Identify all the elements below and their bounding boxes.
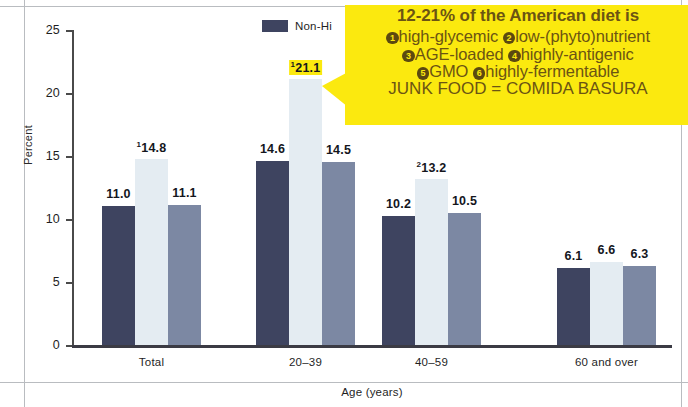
x-axis-title: Age (years) — [341, 386, 403, 398]
callout-marker-6: 6 — [473, 67, 486, 80]
bar-value-label: 14.6 — [260, 142, 285, 156]
callout-marker-1: 1 — [386, 32, 399, 45]
y-tick-mark — [66, 282, 72, 284]
y-tick-label: 10 — [20, 212, 60, 226]
callout-line-5: JUNK FOOD = COMIDA BASURA — [352, 80, 684, 99]
y-tick-label: 0 — [20, 338, 60, 352]
y-tick-mark — [66, 93, 72, 95]
callout-item-3: AGE-loaded — [415, 45, 504, 63]
bar-total-series-2 — [135, 159, 168, 345]
y-tick-label: 20 — [20, 86, 60, 100]
chart-screenshot: Percent 0510152025 11.0114.811.114.6121.… — [0, 0, 688, 407]
legend-label: Non-Hi — [295, 20, 332, 32]
bar-20-39-series-1 — [256, 161, 289, 345]
callout-item-4: highly-antigenic — [521, 45, 634, 63]
bar-60-and-over-series-1 — [557, 268, 590, 345]
bar-value-label: 10.5 — [452, 194, 477, 208]
bar-40-59-series-2 — [415, 179, 448, 345]
frame-border-bottom — [0, 382, 688, 383]
bar-value-label: 6.6 — [598, 243, 616, 257]
callout-marker-2: 2 — [503, 32, 516, 45]
bar-total-series-1 — [102, 206, 135, 345]
callout-line-4: 5GMO 6highly-fermentable — [352, 62, 684, 80]
callout-line-2: 1high-glycemic 2low-(phyto)nutrient — [352, 27, 684, 45]
bar-value-label: 10.2 — [386, 197, 411, 211]
callout-marker-5: 5 — [417, 67, 430, 80]
legend-swatch-icon — [262, 20, 288, 32]
y-tick-mark — [66, 219, 72, 221]
bar-60-and-over-series-2 — [590, 262, 623, 345]
bar-total-series-3 — [168, 205, 201, 345]
callout-marker-4: 4 — [508, 50, 521, 63]
y-tick-mark — [66, 345, 72, 347]
callout-item-5: GMO — [429, 62, 468, 80]
callout-item-6: highly-fermentable — [485, 62, 619, 80]
callout-item-1: high-glycemic — [399, 27, 499, 45]
bar-40-59-series-3 — [448, 213, 481, 345]
bar-value-label: 121.1 — [289, 60, 323, 75]
y-tick-label: 5 — [20, 275, 60, 289]
callout-line-3: 3AGE-loaded 4highly-antigenic — [352, 45, 684, 63]
x-group-label: 60 and over — [575, 356, 638, 368]
x-group-label: 20–39 — [289, 356, 322, 368]
bar-value-label: 14.5 — [326, 143, 351, 157]
bar-60-and-over-series-3 — [623, 266, 656, 345]
bar-20-39-series-2 — [289, 79, 322, 345]
y-tick-label: 15 — [20, 149, 60, 163]
bar-value-label: 114.8 — [137, 140, 167, 155]
y-tick-mark — [66, 30, 72, 32]
y-tick-mark — [66, 156, 72, 158]
x-group-label: 40–59 — [415, 356, 448, 368]
callout-text-block: 12-21% of the American diet is 1high-gly… — [352, 7, 684, 99]
x-group-label: Total — [139, 356, 164, 368]
bar-20-39-series-3 — [322, 162, 355, 345]
y-axis-line — [72, 30, 74, 345]
bar-value-label: 6.3 — [631, 247, 649, 261]
callout-item-2: low-(phyto)nutrient — [515, 27, 650, 45]
callout-line-1: 12-21% of the American diet is — [352, 7, 684, 26]
bar-value-label: 11.1 — [172, 186, 196, 200]
bar-value-label: 11.0 — [106, 187, 130, 201]
chart-legend: Non-Hi — [262, 20, 332, 32]
bar-value-label: 6.1 — [565, 249, 583, 263]
y-tick-label: 25 — [20, 23, 60, 37]
callout-marker-3: 3 — [402, 50, 415, 63]
bar-40-59-series-1 — [382, 216, 415, 345]
x-axis-line — [72, 345, 672, 348]
bar-value-label: 213.2 — [417, 160, 447, 175]
